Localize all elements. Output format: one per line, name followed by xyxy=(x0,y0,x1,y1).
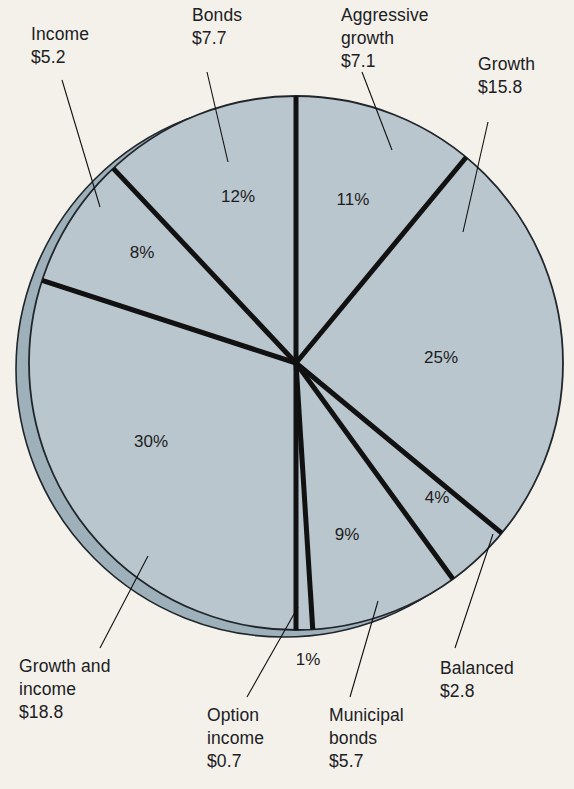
percent-label-growth-and-income: 30% xyxy=(134,432,168,451)
percent-label-balanced: 4% xyxy=(425,488,450,507)
pie-slice-wedges xyxy=(29,96,563,630)
callout-amount-income: $5.2 xyxy=(31,46,89,69)
callout-income: Income$5.2 xyxy=(31,23,89,69)
callout-name-growth: Growth xyxy=(478,53,535,76)
callout-balanced: Balanced$2.8 xyxy=(440,657,514,703)
percent-label-aggressive-growth: 11% xyxy=(337,190,370,209)
percent-label-municipal-bonds: 9% xyxy=(335,525,360,544)
callout-name-income: Income xyxy=(31,23,89,46)
callout-amount-bonds: $7.7 xyxy=(192,27,242,50)
callout-amount-option-income: $0.7 xyxy=(207,750,264,773)
callout-growth: Growth$15.8 xyxy=(478,53,535,99)
pie-chart-figure: 11%25%4%9%1%30%8%12% Aggressive growth$7… xyxy=(0,0,574,789)
percent-label-option-income: 1% xyxy=(296,650,321,669)
callout-bonds: Bonds$7.7 xyxy=(192,4,242,50)
callout-option-income: Option income$0.7 xyxy=(207,704,264,773)
percent-label-growth: 25% xyxy=(424,348,458,367)
callout-growth-and-income: Growth and income$18.8 xyxy=(19,655,110,724)
callout-amount-growth: $15.8 xyxy=(478,76,535,99)
percent-label-income: 8% xyxy=(130,243,155,262)
callout-amount-growth-and-income: $18.8 xyxy=(19,701,110,724)
leader-line-income xyxy=(62,80,100,207)
callout-municipal-bonds: Municipal bonds$5.7 xyxy=(329,704,404,773)
callout-name-municipal-bonds: Municipal bonds xyxy=(329,704,404,750)
callout-name-aggressive-growth: Aggressive growth xyxy=(341,4,429,50)
callout-name-option-income: Option income xyxy=(207,704,264,750)
callout-amount-aggressive-growth: $7.1 xyxy=(341,50,429,73)
callout-aggressive-growth: Aggressive growth$7.1 xyxy=(341,4,429,73)
percent-label-bonds: 12% xyxy=(221,187,255,206)
callout-name-bonds: Bonds xyxy=(192,4,242,27)
callout-amount-balanced: $2.8 xyxy=(440,680,514,703)
callout-name-growth-and-income: Growth and income xyxy=(19,655,110,701)
callout-name-balanced: Balanced xyxy=(440,657,514,680)
callout-amount-municipal-bonds: $5.7 xyxy=(329,750,404,773)
